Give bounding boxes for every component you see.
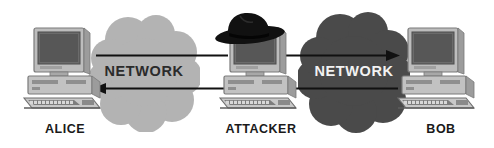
network-attack-diagram: NETWORK NETWORK bbox=[0, 0, 494, 148]
alice-label: ALICE bbox=[20, 122, 110, 136]
bob-label: BOB bbox=[396, 122, 486, 136]
arrow-attacker-to-alice bbox=[92, 83, 232, 94]
attacker-label: ATTACKER bbox=[216, 122, 306, 136]
bob-computer-icon bbox=[396, 26, 482, 118]
black-fedora-hat-icon bbox=[214, 10, 286, 44]
alice-computer-icon bbox=[22, 26, 108, 118]
right-network-label: NETWORK bbox=[314, 63, 394, 79]
left-network-label: NETWORK bbox=[104, 63, 184, 79]
